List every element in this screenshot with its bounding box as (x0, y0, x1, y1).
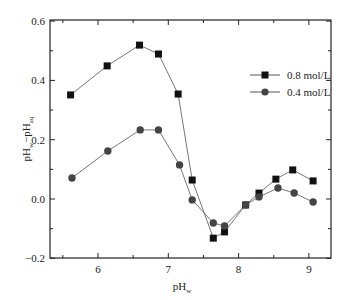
data-point-circle (176, 161, 183, 168)
data-point-circle (242, 201, 249, 208)
x-tick-label: 6 (95, 263, 101, 275)
x-tick-label: 8 (236, 263, 242, 275)
data-point-square (189, 177, 196, 184)
data-point-circle (189, 196, 196, 203)
data-point-square (210, 235, 217, 242)
y-tick-label: 0.4 (31, 74, 45, 86)
data-point-square (175, 91, 182, 98)
legend-circle-marker (261, 88, 268, 95)
data-point-circle (290, 189, 297, 196)
data-point-square (155, 51, 162, 58)
xlabel-sub: w (186, 287, 192, 295)
y-tick-label: −0.2 (25, 252, 45, 264)
y-tick-label: 0.6 (31, 15, 45, 27)
data-point-square (272, 176, 279, 183)
line-chart: 6789−0.20.00.20.40.6 0.8 mol/L 0.4 mol/L… (0, 0, 344, 300)
plot-series (67, 42, 317, 242)
y-tick-label: 0.0 (31, 193, 45, 205)
svg-text:pHw: pHw (173, 280, 192, 295)
x-tick-label: 9 (306, 263, 312, 275)
plot-frame (50, 20, 331, 258)
data-point-circle (104, 147, 111, 154)
legend-square-marker (262, 72, 269, 79)
data-point-square (310, 177, 317, 184)
series-line-0 (71, 45, 314, 238)
legend-label-0: 0.8 mol/L (287, 69, 331, 81)
data-point-circle (136, 126, 143, 133)
data-point-circle (255, 193, 262, 200)
data-point-square (104, 62, 111, 69)
plot-axes: 6789−0.20.00.20.40.6 (25, 15, 331, 275)
legend-label-1: 0.4 mol/L (287, 86, 331, 98)
data-point-circle (309, 198, 316, 205)
data-point-circle (155, 126, 162, 133)
x-tick-label: 7 (166, 263, 172, 275)
ylabel-sub2: aq (27, 116, 35, 123)
legend: 0.8 mol/L 0.4 mol/L (250, 69, 331, 98)
data-point-square (136, 42, 143, 49)
data-point-circle (210, 219, 217, 226)
ylabel-dash: −pH (20, 123, 32, 143)
data-point-circle (221, 222, 228, 229)
data-point-circle (274, 184, 281, 191)
data-point-square (289, 166, 296, 173)
xlabel-main: pH (173, 280, 187, 292)
x-axis-label: pHw (173, 280, 192, 295)
data-point-square (67, 91, 74, 98)
ylabel-main: pH (20, 148, 32, 162)
data-point-circle (68, 174, 75, 181)
